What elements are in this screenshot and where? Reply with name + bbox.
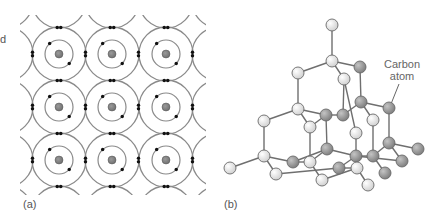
shared-electron xyxy=(166,79,169,82)
shared-electron xyxy=(31,54,34,57)
carbon-atom-dark xyxy=(383,102,395,114)
carbon-atom-dark xyxy=(383,137,395,149)
carbon-atom-light xyxy=(292,103,304,115)
shared-electron xyxy=(59,132,62,135)
shared-electron xyxy=(191,107,194,110)
nucleus xyxy=(162,50,170,58)
inner-electron xyxy=(175,168,178,171)
shared-electron xyxy=(56,79,59,82)
carbon-atom-dark xyxy=(379,167,391,179)
carbon-atom-light xyxy=(224,162,236,174)
carbon-atom-dark xyxy=(354,61,366,73)
shared-electron xyxy=(84,51,87,54)
outer-orbit xyxy=(192,186,246,219)
outer-orbit xyxy=(139,0,193,28)
inner-electron xyxy=(155,148,158,151)
carbon-atom-dark xyxy=(367,150,379,162)
nucleus xyxy=(108,103,116,111)
shared-electron xyxy=(109,132,112,135)
inner-electron xyxy=(155,95,158,98)
shared-electron xyxy=(137,160,140,163)
shared-electron xyxy=(112,26,115,29)
nucleus xyxy=(55,103,63,111)
shared-electron xyxy=(191,54,194,57)
nucleus xyxy=(162,156,170,164)
carbon-atom-light xyxy=(258,115,270,127)
shared-electron xyxy=(191,157,194,160)
callout-leader-line xyxy=(391,84,399,104)
outer-orbit xyxy=(0,133,33,187)
shared-electron xyxy=(163,79,166,82)
shared-electron xyxy=(59,26,62,29)
nucleus xyxy=(108,156,116,164)
shared-electron xyxy=(137,107,140,110)
shared-electron xyxy=(191,104,194,107)
carbon-atom-dark xyxy=(350,150,362,162)
outer-orbit xyxy=(139,186,193,219)
outer-orbit xyxy=(85,186,139,219)
shared-electron xyxy=(112,185,115,188)
shared-electron xyxy=(84,107,87,110)
carbon-atom-dark xyxy=(333,162,345,174)
outer-orbit xyxy=(85,0,139,28)
carbon-atom-light xyxy=(258,150,270,162)
shared-electron xyxy=(31,157,34,160)
outer-orbit xyxy=(32,186,86,219)
shared-electron xyxy=(163,132,166,135)
bond-line xyxy=(276,168,339,174)
carbon-atom-light xyxy=(326,55,338,67)
carbon-atom-light xyxy=(292,67,304,79)
carbon-atom-dark xyxy=(320,109,332,121)
nucleus xyxy=(108,50,116,58)
shared-electron xyxy=(109,79,112,82)
inner-electron xyxy=(68,168,71,171)
shared-electron xyxy=(31,51,34,54)
shared-electron xyxy=(166,132,169,135)
panel-a-covalent-lattice xyxy=(0,0,246,219)
shared-electron xyxy=(191,51,194,54)
shared-electron xyxy=(84,157,87,160)
inner-electron xyxy=(101,148,104,151)
shared-electron xyxy=(59,185,62,188)
shared-electron xyxy=(163,185,166,188)
shared-electron xyxy=(56,185,59,188)
shared-electron xyxy=(84,104,87,107)
carbon-atom-dark xyxy=(355,96,367,108)
shared-electron xyxy=(112,132,115,135)
carbon-atom-light xyxy=(367,114,379,126)
panel-label-b: (b) xyxy=(224,198,237,210)
carbon-atom-dark xyxy=(287,156,299,168)
inner-electron xyxy=(175,115,178,118)
shared-electron xyxy=(137,157,140,160)
shared-electron xyxy=(31,107,34,110)
panel-label-a: (a) xyxy=(23,198,36,210)
inner-electron xyxy=(48,95,51,98)
inner-electron xyxy=(121,62,124,65)
carbon-atom-light xyxy=(362,179,374,191)
shared-electron xyxy=(84,54,87,57)
inner-electron xyxy=(155,42,158,45)
carbon-atom-light xyxy=(351,162,363,174)
panel-b-diamond-lattice xyxy=(224,19,424,191)
shared-electron xyxy=(112,79,115,82)
carbon-atom-dark xyxy=(396,155,408,167)
nucleus xyxy=(162,103,170,111)
carbon-atom-light xyxy=(350,127,362,139)
outer-orbit xyxy=(192,133,246,187)
atoms xyxy=(224,19,424,191)
inner-electron xyxy=(68,62,71,65)
outer-orbit xyxy=(192,80,246,134)
carbon-atom-callout: Carbon atom xyxy=(380,58,424,82)
shared-electron xyxy=(163,26,166,29)
carbon-atom-dark xyxy=(321,143,333,155)
inner-electron xyxy=(101,42,104,45)
shared-electron xyxy=(166,185,169,188)
inner-electron xyxy=(48,148,51,151)
carbon-atom-light xyxy=(304,156,316,168)
callout-line-2: atom xyxy=(380,70,424,82)
nucleus xyxy=(55,156,63,164)
nucleus xyxy=(55,50,63,58)
shared-electron xyxy=(56,26,59,29)
shared-electron xyxy=(31,160,34,163)
shared-electron xyxy=(166,26,169,29)
